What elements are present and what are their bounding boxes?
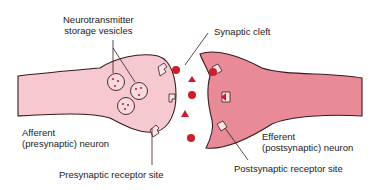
label-presynaptic-receptor-site: Presynaptic receptor site [59, 169, 164, 180]
label-postsynaptic-receptor-site: Postsynaptic receptor site [234, 163, 343, 174]
label-efferent-neuron: Efferent (postsynaptic) neuron [262, 131, 353, 153]
label-synaptic-cleft: Synaptic cleft [214, 26, 271, 37]
presynaptic-neuron [18, 55, 176, 133]
synapse-illustration [0, 0, 380, 190]
label-afferent-neuron: Afferent (presynaptic) neuron [22, 127, 109, 149]
label-storage-vesicles: Neurotransmitter storage vesicles [63, 14, 134, 36]
synapse-diagram: Neurotransmitter storage vesicles Synapt… [0, 0, 380, 190]
